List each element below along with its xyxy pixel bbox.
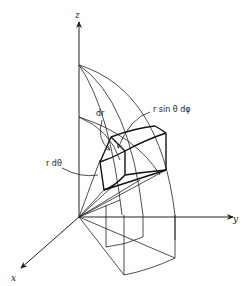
x-axis bbox=[21, 217, 79, 268]
spherical-volume-element-diagram: z y x dr r sin θ dφ r dθ bbox=[0, 0, 245, 286]
x-axis-label: x bbox=[11, 273, 16, 283]
y-axis-label: y bbox=[232, 214, 239, 224]
r-dtheta-label: r dθ bbox=[46, 159, 62, 168]
dr-label: dr bbox=[96, 109, 105, 118]
r-dtheta-leader bbox=[62, 168, 98, 176]
r-sin-theta-dphi-label: r sin θ dφ bbox=[153, 105, 191, 114]
z-axis-label: z bbox=[74, 10, 80, 20]
